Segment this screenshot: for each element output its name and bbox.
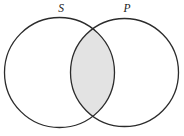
venn-diagram-canvas: S P [0, 0, 184, 136]
set-s-label: S [58, 2, 64, 14]
venn-diagram: S P [0, 0, 184, 136]
set-p-label: P [122, 2, 130, 14]
